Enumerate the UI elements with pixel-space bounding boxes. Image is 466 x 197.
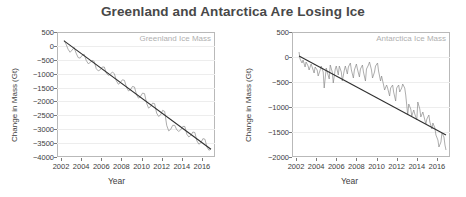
- y-tick-label: 500: [276, 28, 289, 37]
- figure-canvas: Greenland and Antarctica Are Losing Ice …: [0, 0, 466, 197]
- x-axis-label: Year: [0, 176, 233, 186]
- y-tick-label: −2000: [33, 97, 54, 106]
- y-tick-label: −3500: [33, 139, 54, 148]
- x-tick-label: 2016: [194, 162, 211, 171]
- x-tick-label: 2004: [308, 162, 325, 171]
- x-tick-label: 2004: [73, 162, 90, 171]
- x-axis-ticks: 20022004200620082010201220142016: [57, 158, 215, 176]
- chart-panel-antarctica: Change in Mass (Gt) 5000−500−1000−1500−2…: [233, 24, 466, 197]
- x-tick-mark: [437, 158, 438, 161]
- series-svg: [292, 32, 450, 157]
- figure-title: Greenland and Antarctica Are Losing Ice: [0, 4, 466, 19]
- y-tick-label: −3000: [33, 125, 54, 134]
- x-tick-label: 2010: [133, 162, 150, 171]
- plot-area: Antarctica Ice Mass: [292, 32, 450, 157]
- x-tick-mark: [121, 158, 122, 161]
- x-tick-label: 2002: [53, 162, 70, 171]
- x-tick-label: 2012: [388, 162, 405, 171]
- trend-line: [299, 56, 446, 135]
- x-tick-label: 2006: [93, 162, 110, 171]
- x-tick-mark: [61, 158, 62, 161]
- x-tick-label: 2012: [153, 162, 170, 171]
- x-axis-ticks: 20022004200620082010201220142016: [292, 158, 450, 176]
- y-axis-ticks: 5000−500−1000−1500−2000: [252, 32, 289, 157]
- x-tick-label: 2014: [408, 162, 425, 171]
- data-line: [299, 52, 446, 150]
- chart-panel-greenland: Change in Mass (Gt) 5000−500−1000−1500−2…: [0, 24, 233, 197]
- x-tick-mark: [417, 158, 418, 161]
- x-tick-mark: [101, 158, 102, 161]
- x-tick-mark: [182, 158, 183, 161]
- trend-line: [64, 41, 211, 149]
- x-tick-mark: [397, 158, 398, 161]
- y-axis-ticks: 5000−500−1000−1500−2000−2500−3000−3500−4…: [17, 32, 54, 157]
- x-tick-label: 2002: [288, 162, 305, 171]
- x-tick-label: 2014: [173, 162, 190, 171]
- x-tick-mark: [162, 158, 163, 161]
- x-tick-label: 2016: [429, 162, 446, 171]
- x-tick-label: 2010: [368, 162, 385, 171]
- x-tick-mark: [142, 158, 143, 161]
- plot-area: Greenland Ice Mass: [57, 32, 215, 157]
- y-tick-label: −1500: [33, 83, 54, 92]
- y-tick-label: −500: [272, 78, 289, 87]
- series-svg: [57, 32, 215, 157]
- x-tick-label: 2006: [328, 162, 345, 171]
- x-tick-mark: [316, 158, 317, 161]
- x-tick-label: 2008: [348, 162, 365, 171]
- y-tick-label: −1500: [268, 128, 289, 137]
- y-tick-label: −2000: [268, 153, 289, 162]
- x-axis-label: Year: [233, 176, 466, 186]
- y-tick-label: −4000: [33, 153, 54, 162]
- x-tick-label: 2008: [113, 162, 130, 171]
- y-tick-label: −1000: [268, 103, 289, 112]
- x-tick-mark: [296, 158, 297, 161]
- x-tick-mark: [202, 158, 203, 161]
- x-tick-mark: [377, 158, 378, 161]
- y-tick-label: 500: [41, 28, 54, 37]
- y-tick-label: −500: [37, 55, 54, 64]
- x-tick-mark: [81, 158, 82, 161]
- y-tick-label: −2500: [33, 111, 54, 120]
- x-tick-mark: [336, 158, 337, 161]
- x-tick-mark: [356, 158, 357, 161]
- y-tick-label: −1000: [33, 69, 54, 78]
